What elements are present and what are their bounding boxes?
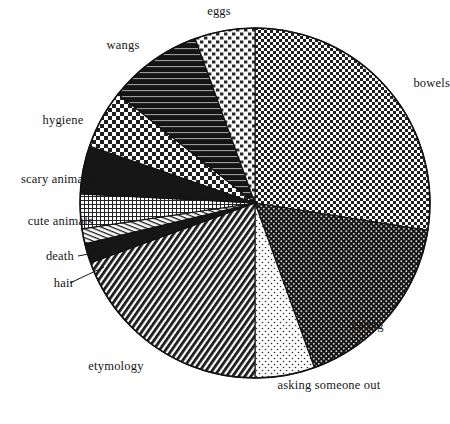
slice-label-asking-someone-out: asking someone out <box>254 378 404 392</box>
slice-label-etymology: etymology <box>71 359 161 373</box>
slice-label-wangs: wangs <box>88 38 158 52</box>
pie-slice-bowels[interactable] <box>255 28 430 230</box>
slice-label-death: death <box>28 249 74 263</box>
slice-label-hair: hair <box>38 276 74 290</box>
slice-label-scary-animals: scary animals <box>0 172 92 186</box>
slice-label-eating: eating <box>352 318 416 332</box>
slice-label-eggs: eggs <box>184 4 254 18</box>
slice-label-bowels: bowels <box>390 76 450 90</box>
slice-label-cute-animals: cute animals <box>1 214 93 228</box>
slice-label-hygiene: hygiene <box>28 113 98 127</box>
